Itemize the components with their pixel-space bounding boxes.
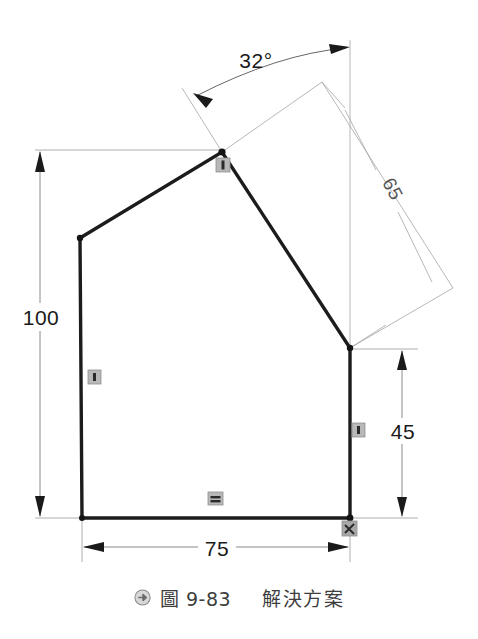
constraint-vertical-left-edge[interactable]	[88, 370, 101, 384]
constraint-badges[interactable]	[88, 158, 365, 536]
dim100-arrow-top	[35, 151, 45, 172]
sketch-canvas: 32° 65 100 45	[0, 0, 478, 639]
angle-arrow-right	[329, 44, 350, 54]
dimension-angle-32[interactable]: 32°	[193, 44, 350, 108]
figure-caption: 圖 9-83 解決方案	[0, 575, 478, 619]
vertex-bottom-left[interactable]	[79, 515, 85, 521]
angle-arrow-left	[193, 93, 213, 108]
dimension-length-65[interactable]: 65	[322, 82, 432, 348]
vertex-apex[interactable]	[218, 148, 225, 155]
vertical-bar-icon	[222, 161, 225, 170]
vertical-bar-icon	[93, 373, 96, 381]
arrow-bullet-icon	[134, 588, 153, 607]
constraint-fixed-origin[interactable]	[342, 521, 357, 536]
vertical-bar-icon	[357, 426, 360, 434]
profile-outline[interactable]	[80, 152, 350, 518]
dim45-arrow-bottom	[397, 497, 407, 517]
constraint-coincident-apex[interactable]	[216, 158, 230, 172]
vertex-right-shoulder[interactable]	[347, 345, 353, 351]
pentagon-profile[interactable]	[77, 148, 354, 521]
dim75-arrow-left	[83, 542, 104, 552]
length-65-label: 65	[378, 174, 407, 203]
construction-geometry	[182, 40, 453, 520]
dim65-ext-upper	[322, 82, 345, 108]
width-75-label: 75	[205, 537, 229, 560]
caption-figure-label: 圖 9-83	[160, 584, 231, 611]
caption-figure-title: 解決方案	[262, 584, 344, 611]
dim75-arrow-right	[328, 542, 349, 552]
dim45-arrow-top	[397, 350, 407, 370]
horizontal-bars-icon	[211, 496, 221, 498]
constraint-vertical-right-edge[interactable]	[352, 423, 365, 437]
cad-sketch-drawing: 32° 65 100 45	[0, 0, 478, 639]
dimension-width-75[interactable]: 75	[82, 520, 350, 562]
construction-rect-top	[222, 82, 322, 152]
dimension-height-100[interactable]: 100	[22, 150, 225, 518]
vertex-top-left[interactable]	[77, 235, 83, 241]
construction-rect-bottom	[350, 288, 453, 348]
angle-32-label: 32°	[239, 49, 272, 72]
vertex-bottom-right[interactable]	[347, 515, 354, 522]
dim100-arrow-bottom	[35, 496, 45, 517]
height-100-label: 100	[23, 306, 60, 329]
height-45-label: 45	[391, 420, 415, 443]
dim65-ext-lower	[350, 325, 386, 348]
constraint-horizontal-bottom-edge[interactable]	[208, 492, 223, 505]
